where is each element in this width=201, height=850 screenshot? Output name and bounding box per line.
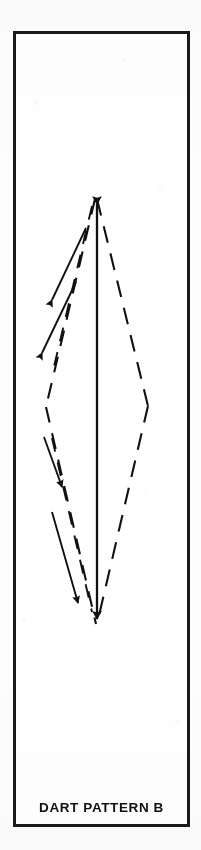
dart-pattern-figure [0,0,201,850]
figure-page: DART PATTERN B [0,0,201,850]
figure-caption: DART PATTERN B [13,800,190,815]
figure-frame [15,33,189,826]
